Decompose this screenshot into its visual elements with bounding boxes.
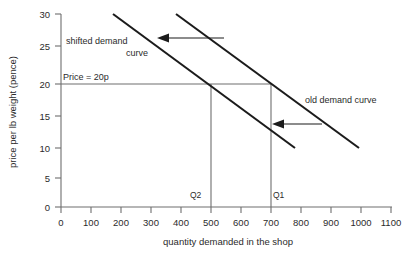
x-tick-label-800: 800: [293, 217, 309, 228]
shifted-curve-label-line1: shifted demand: [66, 36, 128, 46]
y-tick-label-5: 5: [45, 173, 50, 184]
shift-arrow-bottom-head: [272, 120, 284, 129]
x-tick-label-900: 900: [323, 217, 339, 228]
y-tick-label-30: 30: [39, 9, 50, 20]
x-tick-label-600: 600: [233, 217, 249, 228]
x-tick-label-500: 500: [203, 217, 219, 228]
x-tick-marks: [61, 207, 391, 213]
y-axis-title: price per lb weight (pence): [7, 56, 18, 168]
x-axis-title: quantity demanded in the shop: [163, 236, 293, 247]
shift-arrow-top-head: [157, 34, 169, 43]
x-tick-label-200: 200: [113, 217, 129, 228]
x-tick-label-1000: 1000: [350, 217, 371, 228]
x-tick-label-1100: 1100: [381, 217, 401, 228]
y-tick-label-20: 20: [39, 79, 50, 90]
x-tick-labels: 0 100 200 300 400 500 600 700 800 900 10…: [58, 217, 401, 228]
x-tick-label-0: 0: [58, 217, 63, 228]
y-tick-labels: 30 25 20 15 10 5 0: [39, 9, 50, 213]
q1-label: Q1: [273, 190, 285, 200]
demand-curve-chart: 30 25 20 15 10 5 0 0 100 200 3: [0, 0, 419, 255]
demand-curves-group: [113, 14, 359, 148]
x-tick-label-400: 400: [173, 217, 189, 228]
y-tick-label-15: 15: [39, 111, 50, 122]
reference-lines-group: [61, 84, 271, 207]
y-tick-label-25: 25: [39, 41, 50, 52]
x-tick-label-100: 100: [83, 217, 99, 228]
q2-label: Q2: [190, 190, 202, 200]
shifted-curve-label-line2: curve: [126, 48, 148, 58]
x-tick-label-300: 300: [143, 217, 159, 228]
y-tick-marks: [55, 14, 61, 207]
y-tick-label-10: 10: [39, 143, 50, 154]
old-curve-label: old demand curve: [305, 95, 377, 105]
y-tick-label-0: 0: [45, 202, 50, 213]
shift-arrow-bottom: [272, 120, 322, 129]
x-tick-label-700: 700: [263, 217, 279, 228]
price-line-label: Price = 20p: [63, 72, 109, 82]
chart-canvas: 30 25 20 15 10 5 0 0 100 200 3: [0, 0, 419, 255]
